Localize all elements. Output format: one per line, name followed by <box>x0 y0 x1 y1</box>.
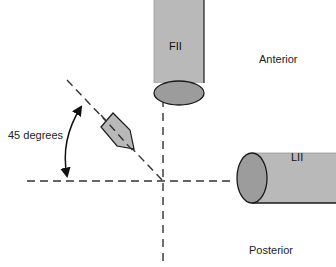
anterior-label: Anterior <box>259 53 298 65</box>
angle-arc-arrow-icon <box>65 107 81 176</box>
beam-orientation-diagram: FII LII 45 degrees Anterior Posterior <box>0 0 336 267</box>
lii-cylinder: LII <box>237 151 336 203</box>
angle-label: 45 degrees <box>8 129 64 141</box>
lii-label: LII <box>291 151 303 163</box>
fii-cylinder: FII <box>154 0 204 105</box>
lii-cylinder-face <box>237 153 267 203</box>
fii-cylinder-face <box>154 81 204 105</box>
angled-probe-icon <box>101 113 134 151</box>
fii-label: FII <box>169 40 182 52</box>
posterior-label: Posterior <box>249 244 293 256</box>
